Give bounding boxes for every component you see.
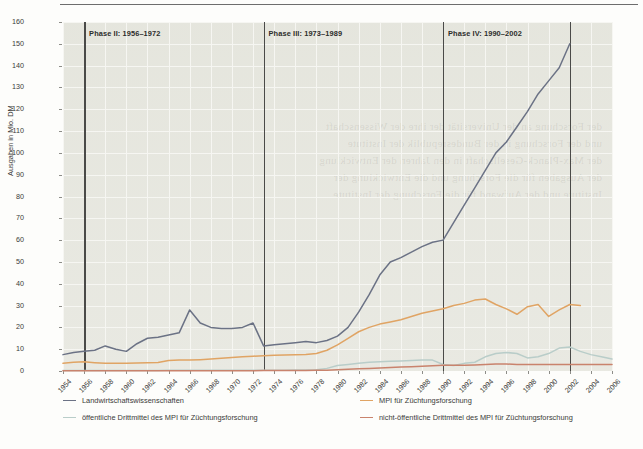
y-tick-mark xyxy=(59,87,62,88)
y-tick-label: 20 xyxy=(2,322,24,331)
legend-swatch-icon xyxy=(63,400,76,402)
page-top-rule xyxy=(60,4,638,5)
x-tick-label: 2004 xyxy=(576,377,601,402)
x-tick-mark xyxy=(338,371,339,374)
x-tick-label: 1980 xyxy=(323,377,348,402)
plot-area: der Forschung an der Universität der ihr… xyxy=(63,22,612,371)
x-tick-mark xyxy=(591,371,592,374)
y-tick-mark xyxy=(59,349,62,350)
x-tick-label: 2000 xyxy=(534,377,559,402)
y-tick-mark xyxy=(59,44,62,45)
y-tick-mark xyxy=(59,131,62,132)
y-axis-label: Ausgaben in Mio. DM xyxy=(6,105,15,176)
y-tick-label: 100 xyxy=(2,148,24,157)
series-lines xyxy=(63,22,612,371)
series-line xyxy=(63,299,580,363)
y-tick-label: 110 xyxy=(2,126,24,135)
x-tick-label: 1972 xyxy=(239,377,264,402)
legend-label: öffentliche Drittmittel des MPI für Züch… xyxy=(82,413,258,422)
y-tick-mark xyxy=(59,66,62,67)
y-tick-label: 60 xyxy=(2,235,24,244)
legend-swatch-icon xyxy=(63,417,76,419)
y-tick-mark xyxy=(59,109,62,110)
y-tick-mark xyxy=(59,327,62,328)
x-tick-mark xyxy=(380,371,381,374)
x-tick-label: 1970 xyxy=(218,377,243,402)
x-tick-label: 2006 xyxy=(598,377,623,402)
x-tick-mark xyxy=(401,371,402,374)
series-line xyxy=(63,44,570,355)
x-tick-mark xyxy=(274,371,275,374)
y-tick-label: 80 xyxy=(2,192,24,201)
y-tick-label: 70 xyxy=(2,213,24,222)
x-tick-mark xyxy=(506,371,507,374)
legend-swatch-icon xyxy=(360,417,373,419)
y-tick-mark xyxy=(59,371,62,372)
series-line xyxy=(63,347,612,371)
y-tick-label: 90 xyxy=(2,170,24,179)
y-tick-mark xyxy=(59,306,62,307)
x-tick-label: 1994 xyxy=(471,377,496,402)
gridline-vertical xyxy=(612,22,613,371)
y-tick-mark xyxy=(59,153,62,154)
y-tick-label: 10 xyxy=(2,344,24,353)
y-tick-mark xyxy=(59,175,62,176)
x-tick-mark xyxy=(570,371,571,374)
x-tick-label: 1978 xyxy=(302,377,327,402)
x-tick-mark xyxy=(443,371,444,374)
y-tick-mark xyxy=(59,284,62,285)
x-tick-mark xyxy=(316,371,317,374)
y-tick-label: 130 xyxy=(2,82,24,91)
y-tick-mark xyxy=(59,218,62,219)
x-tick-label: 2002 xyxy=(555,377,580,402)
chart-page: Ausgaben in Mio. DM 01020304050607080901… xyxy=(0,0,643,449)
legend-item: MPI für Züchtungsforschung xyxy=(360,396,472,405)
y-tick-mark xyxy=(59,22,62,23)
y-tick-label: 30 xyxy=(2,301,24,310)
legend-swatch-icon xyxy=(360,400,373,402)
x-tick-mark xyxy=(359,371,360,374)
legend-label: Landwirtschaftswissenschaften xyxy=(82,396,184,405)
x-tick-label: 1996 xyxy=(492,377,517,402)
x-tick-label: 1998 xyxy=(513,377,538,402)
y-tick-label: 150 xyxy=(2,39,24,48)
y-tick-label: 50 xyxy=(2,257,24,266)
y-tick-label: 0 xyxy=(2,366,24,375)
legend-item: Landwirtschaftswissenschaften xyxy=(63,396,184,405)
legend-label: nicht-öffentliche Drittmittel des MPI fü… xyxy=(379,413,573,422)
y-tick-mark xyxy=(59,197,62,198)
x-tick-mark xyxy=(612,371,613,374)
legend-item: nicht-öffentliche Drittmittel des MPI fü… xyxy=(360,413,573,422)
legend-item: öffentliche Drittmittel des MPI für Züch… xyxy=(63,413,258,422)
x-tick-mark xyxy=(295,371,296,374)
y-tick-label: 140 xyxy=(2,61,24,70)
x-tick-mark xyxy=(485,371,486,374)
x-tick-mark xyxy=(528,371,529,374)
y-tick-label: 120 xyxy=(2,104,24,113)
x-tick-label: 1968 xyxy=(196,377,221,402)
x-tick-mark xyxy=(549,371,550,374)
x-tick-mark xyxy=(422,371,423,374)
y-tick-mark xyxy=(59,262,62,263)
y-tick-label: 40 xyxy=(2,279,24,288)
x-tick-label: 1976 xyxy=(281,377,306,402)
legend-label: MPI für Züchtungsforschung xyxy=(379,396,472,405)
x-tick-label: 1974 xyxy=(260,377,285,402)
y-tick-label: 160 xyxy=(2,17,24,26)
y-tick-mark xyxy=(59,240,62,241)
x-tick-mark xyxy=(464,371,465,374)
